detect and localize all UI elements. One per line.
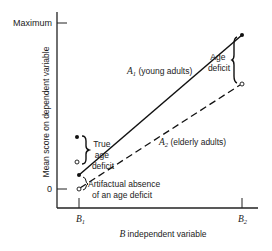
series-a2-label: A2 (elderly adults) (158, 137, 226, 148)
series-a1-point-b2 (240, 33, 244, 37)
x-tick-label-b1: B1 (76, 214, 85, 225)
y-tick-label-maximum: Maximum (13, 18, 52, 28)
age-deficit-label: Age deficit (208, 52, 231, 73)
x-tick-label-b2: B2 (238, 214, 248, 225)
series-a2-point-b1 (77, 187, 81, 191)
true-deficit-open-point (75, 160, 79, 164)
true-deficit-brace (82, 136, 89, 164)
series-a1-point-b1 (77, 173, 81, 177)
x-axis-label: B independent variable (119, 229, 206, 239)
artifactual-label: Artifactual absence of an age deficit (88, 179, 163, 200)
series-a1-label: A1 (young adults) (126, 66, 192, 77)
y-tick-label-zero: 0 (47, 184, 52, 194)
diagram: Maximum 0 Mean score on dependent variab… (0, 0, 272, 251)
series-a2-point-b2 (240, 82, 244, 86)
y-axis-label: Mean score on dependent variable (41, 46, 51, 177)
true-deficit-label: True age deficit (92, 139, 115, 171)
true-deficit-filled-point (75, 135, 79, 139)
